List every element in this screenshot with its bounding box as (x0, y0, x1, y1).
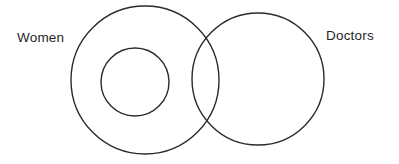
circle-women (71, 6, 219, 154)
venn-diagram-canvas: Women Doctors (0, 0, 399, 164)
circle-doctors (192, 13, 324, 145)
label-women: Women (17, 30, 64, 45)
circle-inner-subset (101, 48, 169, 116)
label-doctors: Doctors (326, 28, 374, 43)
venn-diagram: Women Doctors (0, 0, 399, 164)
